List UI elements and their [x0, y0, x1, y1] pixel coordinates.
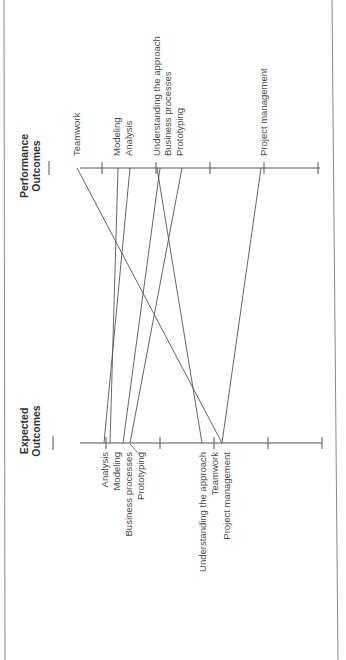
performance-label: Understanding the approach [151, 36, 162, 156]
performance-title-line2: Outcomes [30, 140, 42, 192]
performance-label: Project management [258, 68, 269, 156]
connection-line [222, 168, 261, 443]
expected-title-line1: Expected [18, 408, 30, 455]
connection-line [123, 168, 160, 443]
expected-label: Prototyping [135, 452, 146, 500]
connection-line [77, 168, 222, 443]
right-border [332, 0, 338, 660]
expected-label: Understanding the approach [197, 452, 208, 572]
left-border [4, 0, 5, 660]
performance-label: Prototyping [174, 108, 185, 156]
connection-line [157, 168, 202, 443]
performance-labels: TeamworkModelingAnalysisUnderstanding th… [71, 36, 269, 156]
expected-label: Project management [221, 452, 232, 540]
performance-label: Business processes [162, 71, 173, 156]
expected-label: Modeling [111, 452, 122, 491]
performance-axis-title: Performance Outcomes [18, 134, 42, 198]
performance-title-line1: Performance [18, 134, 30, 198]
expected-axis-title: Expected Outcomes [18, 405, 42, 457]
expected-axis [53, 436, 322, 450]
expected-labels: AnalysisModelingBusiness processesProtot… [99, 452, 232, 572]
connection-lines [77, 168, 261, 455]
performance-label: Analysis [123, 120, 134, 156]
connection-line [130, 168, 182, 443]
expected-title-line2: Outcomes [30, 405, 42, 457]
outcomes-slope-diagram: Performance Outcomes Expected Outcomes T… [0, 0, 346, 660]
expected-label: Analysis [99, 452, 110, 488]
performance-label: Modeling [111, 117, 122, 156]
expected-label: Business processes [123, 452, 134, 537]
performance-axis [49, 161, 320, 175]
diagram-canvas: Performance Outcomes Expected Outcomes T… [0, 0, 346, 660]
expected-label: Teamwork [209, 452, 220, 496]
performance-label: Teamwork [71, 112, 82, 156]
